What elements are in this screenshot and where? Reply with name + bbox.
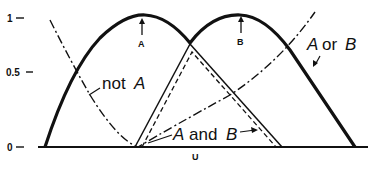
or-label-a: A	[306, 35, 318, 54]
not-a-pointer	[89, 88, 100, 95]
and-pointer-arrowhead-icon	[251, 127, 258, 133]
and-label-word: and	[189, 125, 217, 144]
not-a-label-word: not	[102, 74, 126, 93]
x-axis-label: U	[192, 152, 199, 162]
peak-b-label: B	[237, 37, 244, 47]
y-tick-0-5: 0.5	[6, 67, 20, 78]
y-tick-0: 0	[7, 142, 13, 153]
fuzzy-set-diagram: 1 0.5 0 A B not A A or B A and B U	[0, 0, 387, 169]
or-label-word: or	[322, 35, 337, 54]
not-a-label-set: A	[133, 74, 145, 93]
y-tick-1: 1	[7, 13, 13, 24]
peak-a-arrowhead-icon	[139, 18, 145, 24]
peak-a-label: A	[138, 39, 145, 49]
and-label-b: B	[226, 125, 237, 144]
or-label-b: B	[345, 35, 356, 54]
and-label-a: A	[172, 125, 184, 144]
peak-b-arrowhead-icon	[238, 16, 244, 22]
